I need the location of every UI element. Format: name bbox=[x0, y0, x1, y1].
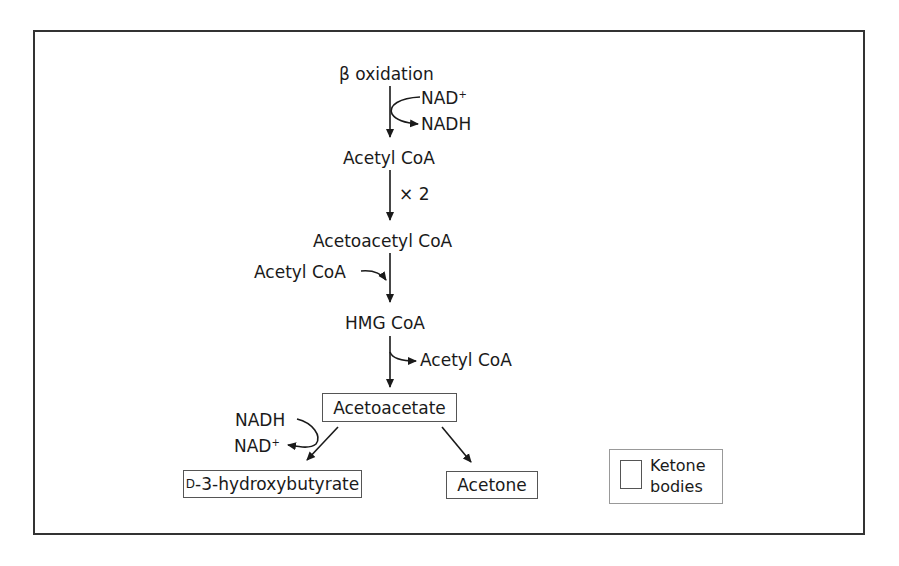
node-d-3-hydroxybutyrate: D-3-hydroxybutyrate bbox=[183, 470, 362, 498]
legend-box-swatch-icon bbox=[620, 460, 642, 489]
arrow-acetylcoa-input bbox=[361, 271, 386, 280]
label-nadh-1: NADH bbox=[421, 114, 471, 134]
label-acetyl-coa-output: Acetyl CoA bbox=[420, 350, 512, 370]
acetoacetate-label: Acetoacetate bbox=[333, 398, 446, 418]
arrow-acetoacetate-to-acetone bbox=[442, 427, 471, 462]
arrow-acetylcoa-output bbox=[390, 352, 416, 361]
label-nad-plus-2: NAD+ bbox=[234, 436, 280, 456]
hydroxybutyrate-label: -3-hydroxybutyrate bbox=[195, 474, 359, 494]
acetone-label: Acetone bbox=[457, 475, 526, 495]
arrow-acetoacetate-to-hydroxybutyrate bbox=[307, 427, 338, 460]
legend-line-1: Ketone bbox=[650, 455, 706, 476]
arrow-nad-to-nadh bbox=[391, 97, 420, 124]
label-nad-plus-1: NAD+ bbox=[421, 88, 467, 108]
node-acetone: Acetone bbox=[446, 471, 538, 499]
node-acetyl-coa: Acetyl CoA bbox=[343, 148, 435, 168]
node-acetoacetyl-coa: Acetoacetyl CoA bbox=[313, 231, 452, 251]
legend-text: Ketone bodies bbox=[650, 455, 706, 497]
label-times-two: × 2 bbox=[399, 184, 429, 204]
node-acetoacetate: Acetoacetate bbox=[322, 393, 457, 422]
node-beta-oxidation: β oxidation bbox=[339, 64, 434, 84]
label-acetyl-coa-input: Acetyl CoA bbox=[254, 262, 346, 282]
label-nadh-2: NADH bbox=[235, 410, 285, 430]
legend-line-2: bodies bbox=[650, 476, 706, 497]
arrow-nadh-to-nad bbox=[288, 419, 318, 447]
legend: Ketone bodies bbox=[609, 449, 723, 504]
node-hmg-coa: HMG CoA bbox=[345, 313, 425, 333]
stereo-prefix: D bbox=[186, 477, 195, 491]
